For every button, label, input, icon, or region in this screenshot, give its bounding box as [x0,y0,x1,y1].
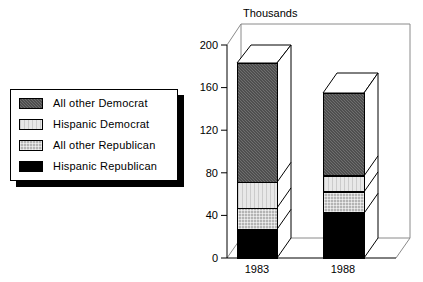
bar-1988-segment-all-other-democrat[interactable] [323,93,365,176]
x-tick-label-1988: 1988 [313,264,373,275]
bar-1988-segment-hispanic-republican[interactable] [323,213,365,259]
chart-canvas: All other Democrat Hispanic Democrat All… [0,0,423,282]
plot-area: Thousands 200 160 120 80 40 0 1983 [0,0,423,282]
bar-1988-segment-hispanic-democrat[interactable] [323,176,365,192]
bar-1988-segment-all-other-republican[interactable] [323,192,365,213]
